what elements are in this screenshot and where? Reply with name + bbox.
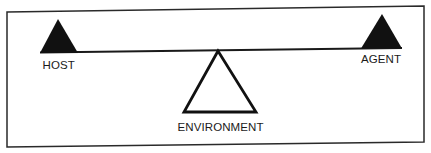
balance-beam: [40, 48, 402, 53]
host-weight-triangle-icon: [40, 19, 78, 53]
agent-weight-triangle-icon: [361, 14, 402, 49]
environment-label: ENVIRONMENT: [178, 121, 264, 133]
host-label: HOST: [43, 59, 75, 71]
epidemiologic-triad-diagram: HOST AGENT ENVIRONMENT: [0, 0, 431, 153]
agent-label: AGENT: [361, 53, 401, 65]
environment-fulcrum-triangle-icon: [184, 51, 256, 112]
